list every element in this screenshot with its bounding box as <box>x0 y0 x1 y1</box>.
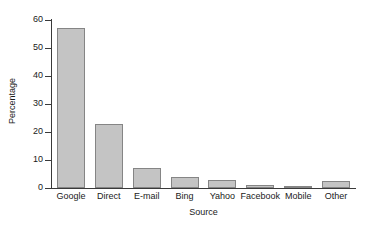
y-axis-tick <box>45 132 51 133</box>
y-axis-tick-label-text: 50 <box>5 43 43 52</box>
bar <box>57 28 85 188</box>
y-axis-tick-label-text: 0 <box>5 183 43 192</box>
x-axis-tick-label: Other <box>311 191 361 202</box>
bar-chart: 0102030405060 GoogleDirectE-mailBingYaho… <box>0 0 371 235</box>
y-axis-tick-label-text: 10 <box>5 155 43 164</box>
x-axis-line <box>51 188 356 189</box>
y-axis-tick-label: 50 <box>0 43 43 52</box>
y-axis-tick <box>45 160 51 161</box>
y-axis-tick <box>45 104 51 105</box>
y-axis-title: Percentage <box>7 71 17 131</box>
bar <box>208 180 236 188</box>
plot-area <box>52 20 355 188</box>
y-axis-tick-label: 10 <box>0 155 43 164</box>
bar <box>133 168 161 188</box>
y-axis-tick-label: 60 <box>0 15 43 24</box>
bar <box>171 177 199 188</box>
y-axis-tick <box>45 20 51 21</box>
bar <box>284 186 312 188</box>
bar <box>322 181 350 188</box>
x-axis-title: Source <box>52 207 355 217</box>
y-axis-tick <box>45 76 51 77</box>
y-axis-tick <box>45 48 51 49</box>
y-axis-tick-label-text: 60 <box>5 15 43 24</box>
y-axis-tick <box>45 188 51 189</box>
y-axis-tick-label: 0 <box>0 183 43 192</box>
bar <box>95 124 123 188</box>
bar <box>246 185 274 188</box>
